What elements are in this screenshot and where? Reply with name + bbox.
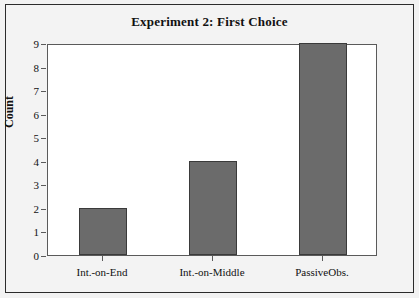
- y-tick-label: 6: [9, 109, 39, 121]
- bar-slot: [48, 45, 158, 255]
- y-tick-mark: [41, 209, 46, 210]
- x-tick-mark: [322, 256, 323, 261]
- y-tick-mark: [41, 115, 46, 116]
- bar-slot: [268, 45, 378, 255]
- bar-slot: [158, 45, 268, 255]
- y-tick-mark: [41, 232, 46, 233]
- x-tick-label: PassiveObs.: [257, 266, 387, 278]
- bar[interactable]: [299, 43, 347, 255]
- y-tick-label: 2: [9, 203, 39, 215]
- y-tick-mark: [41, 91, 46, 92]
- y-tick-label: 0: [9, 250, 39, 262]
- y-tick-label: 4: [9, 156, 39, 168]
- y-tick-mark: [41, 162, 46, 163]
- y-tick-label: 7: [9, 85, 39, 97]
- y-tick-mark: [41, 44, 46, 45]
- x-tick-mark: [212, 256, 213, 261]
- bar[interactable]: [79, 208, 127, 255]
- y-tick-label: 5: [9, 132, 39, 144]
- y-tick-label: 3: [9, 179, 39, 191]
- y-tick-label: 9: [9, 38, 39, 50]
- y-tick-mark: [41, 68, 46, 69]
- y-tick-mark: [41, 256, 46, 257]
- plot-area: [47, 44, 377, 256]
- bars-layer: [48, 45, 376, 255]
- x-tick-mark: [102, 256, 103, 261]
- bar[interactable]: [189, 161, 237, 255]
- y-tick-label: 1: [9, 226, 39, 238]
- y-tick-mark: [41, 185, 46, 186]
- y-tick-label: 8: [9, 62, 39, 74]
- figure: Experiment 2: First Choice Count 0123456…: [0, 0, 419, 298]
- chart-title: Experiment 2: First Choice: [0, 14, 419, 30]
- y-tick-mark: [41, 138, 46, 139]
